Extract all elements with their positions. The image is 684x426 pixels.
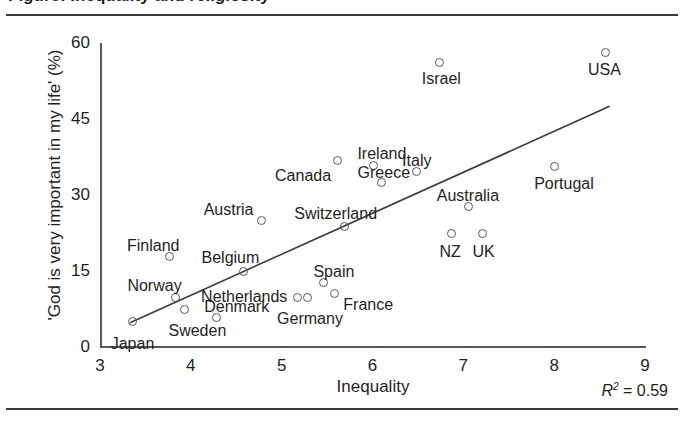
data-point-marker[interactable]	[180, 305, 189, 314]
data-point-marker[interactable]	[293, 293, 302, 302]
x-tick-label: 7	[450, 357, 476, 375]
data-point-label: Switzerland	[294, 205, 377, 222]
y-axis-title: 'God is very important in my life' (%)	[45, 25, 65, 345]
data-point-marker[interactable]	[435, 58, 444, 67]
data-point-label: Canada	[275, 167, 331, 184]
x-tick-label: 4	[178, 357, 204, 375]
data-point-marker[interactable]	[239, 267, 248, 276]
data-point-label: Austria	[204, 201, 254, 218]
y-tick-label: 60	[56, 34, 90, 52]
r2-value: = 0.59	[619, 382, 668, 399]
x-axis-line	[100, 346, 646, 348]
data-point-marker[interactable]	[601, 48, 610, 57]
data-point-label: Norway	[127, 277, 181, 294]
r2-symbol: R	[602, 382, 614, 399]
data-point-marker[interactable]	[340, 222, 349, 231]
x-tick-label: 9	[632, 357, 658, 375]
data-point-label: Japan	[111, 335, 155, 352]
y-tick-label: 30	[56, 186, 90, 204]
data-point-marker[interactable]	[333, 156, 342, 165]
data-point-marker[interactable]	[128, 317, 137, 326]
data-point-marker[interactable]	[550, 162, 559, 171]
x-tick-label: 3	[87, 357, 113, 375]
data-point-label: Belgium	[202, 249, 260, 266]
figure-panel: Figure: Inequality and religiosity 'God …	[0, 0, 684, 426]
x-tick-label: 6	[360, 357, 386, 375]
data-point-label: Australia	[437, 187, 499, 204]
y-axis-line	[100, 43, 102, 348]
data-point-label: Italy	[402, 152, 431, 169]
data-point-label: Finland	[127, 237, 179, 254]
data-point-label: NZ	[440, 243, 461, 260]
data-point-label: Israel	[422, 70, 461, 87]
data-point-label: Ireland	[357, 145, 406, 162]
data-point-label: USA	[588, 61, 621, 78]
y-tick-label: 15	[56, 262, 90, 280]
scatter-plot: 'God is very important in my life' (%) I…	[0, 0, 684, 426]
data-point-label: Netherlands	[201, 288, 287, 305]
x-tick-label: 8	[541, 357, 567, 375]
data-point-label: Spain	[313, 263, 354, 280]
x-axis-title: Inequality	[273, 377, 473, 397]
data-point-marker[interactable]	[330, 289, 339, 298]
data-point-marker[interactable]	[303, 293, 312, 302]
data-point-label: Sweden	[168, 322, 226, 339]
x-tick-label: 5	[269, 357, 295, 375]
data-point-marker[interactable]	[478, 229, 487, 238]
data-point-label: UK	[472, 243, 494, 260]
data-point-marker[interactable]	[257, 216, 266, 225]
y-tick-label: 0	[56, 338, 90, 356]
data-point-marker[interactable]	[447, 229, 456, 238]
r-squared-annotation: R2 = 0.59	[602, 381, 669, 400]
data-point-label: Portugal	[534, 175, 594, 192]
data-point-label: France	[343, 296, 393, 313]
data-point-label: Germany	[277, 310, 343, 327]
y-tick-label: 45	[56, 110, 90, 128]
